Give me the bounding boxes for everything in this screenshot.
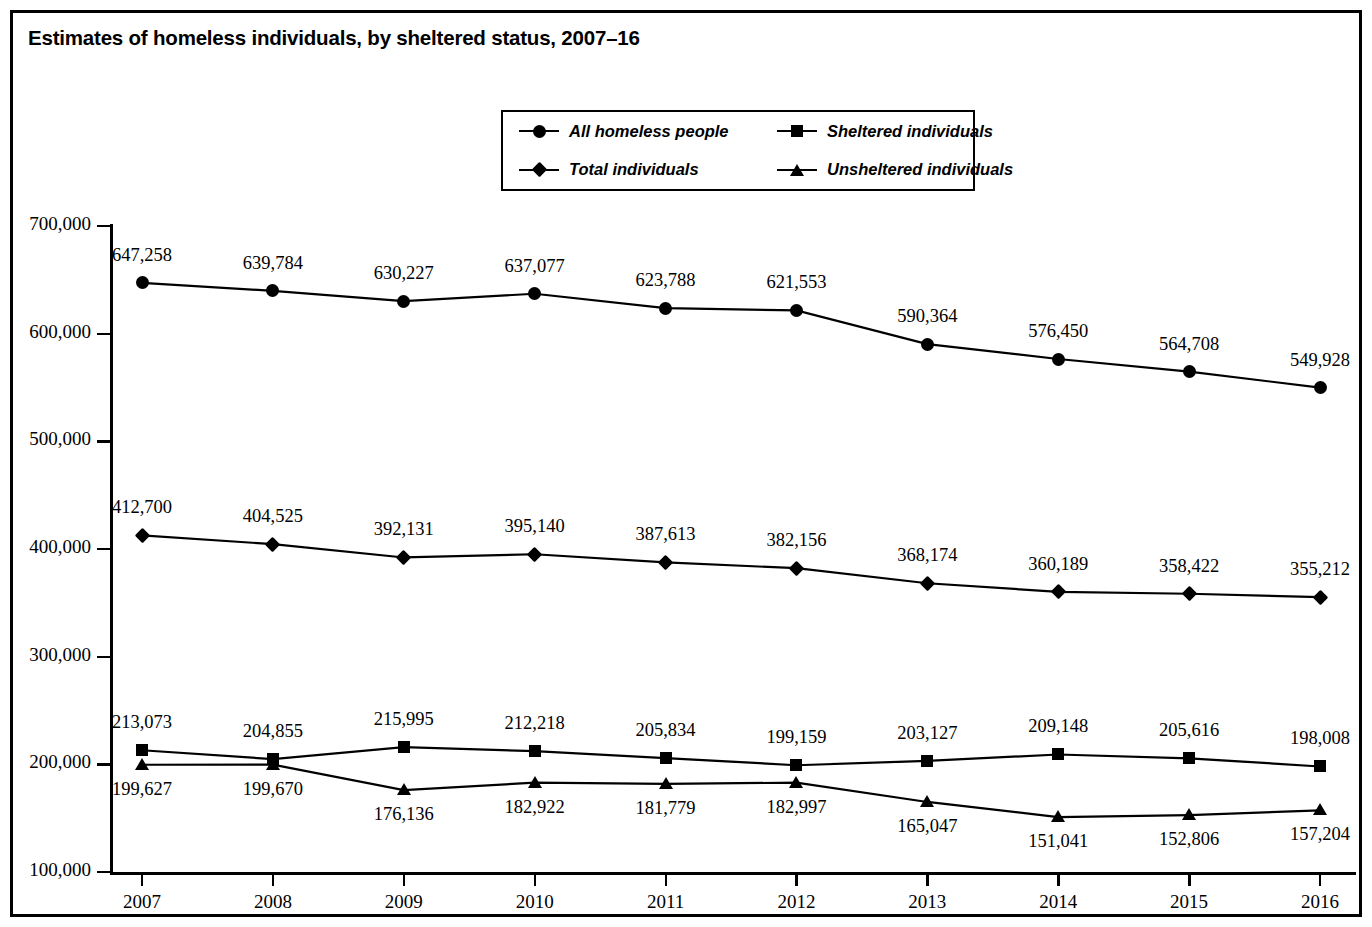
data-point-label: 199,670 — [243, 779, 303, 800]
data-point-label: 181,779 — [635, 798, 695, 819]
data-point-label: 182,997 — [766, 797, 826, 818]
square-marker-icon — [398, 741, 410, 753]
data-point-label: 165,047 — [897, 816, 957, 837]
data-point-label: 199,159 — [766, 727, 826, 748]
data-point-label: 205,616 — [1159, 720, 1219, 741]
data-point-label: 412,700 — [112, 497, 172, 518]
triangle-marker-icon — [1182, 808, 1196, 820]
circle-marker-icon — [1052, 353, 1065, 366]
triangle-marker-icon — [659, 777, 673, 789]
data-point-label: 549,928 — [1290, 350, 1350, 371]
data-point-label: 382,156 — [766, 530, 826, 551]
circle-marker-icon — [659, 302, 672, 315]
data-point-label: 204,855 — [243, 721, 303, 742]
series-line — [142, 747, 1320, 766]
series-lines — [0, 0, 1372, 927]
data-point-label: 387,613 — [635, 524, 695, 545]
triangle-marker-icon — [1051, 810, 1065, 822]
data-point-label: 199,627 — [112, 779, 172, 800]
data-point-label: 157,204 — [1290, 824, 1350, 845]
circle-marker-icon — [397, 295, 410, 308]
data-point-label: 205,834 — [635, 720, 695, 741]
data-point-label: 623,788 — [635, 270, 695, 291]
data-point-label: 360,189 — [1028, 554, 1088, 575]
square-marker-icon — [1314, 760, 1326, 772]
data-point-label: 392,131 — [374, 519, 434, 540]
data-point-label: 630,227 — [374, 263, 434, 284]
plot-area: 100,000200,000300,000400,000500,000600,0… — [0, 0, 1372, 927]
circle-marker-icon — [1183, 365, 1196, 378]
square-marker-icon — [1052, 748, 1064, 760]
data-point-label: 576,450 — [1028, 321, 1088, 342]
square-marker-icon — [136, 744, 148, 756]
chart-figure: Estimates of homeless individuals, by sh… — [0, 0, 1372, 927]
series-line — [142, 535, 1320, 597]
square-marker-icon — [529, 745, 541, 757]
series-line — [142, 765, 1320, 817]
data-point-label: 395,140 — [505, 516, 565, 537]
square-marker-icon — [660, 752, 672, 764]
triangle-marker-icon — [528, 776, 542, 788]
circle-marker-icon — [1314, 381, 1327, 394]
triangle-marker-icon — [920, 795, 934, 807]
data-point-label: 213,073 — [112, 712, 172, 733]
data-point-label: 637,077 — [505, 256, 565, 277]
triangle-marker-icon — [266, 758, 280, 770]
circle-marker-icon — [136, 276, 149, 289]
data-point-label: 203,127 — [897, 723, 957, 744]
data-point-label: 590,364 — [897, 306, 957, 327]
data-point-label: 151,041 — [1028, 831, 1088, 852]
square-marker-icon — [1183, 752, 1195, 764]
triangle-marker-icon — [1313, 803, 1327, 815]
data-point-label: 358,422 — [1159, 556, 1219, 577]
data-point-label: 564,708 — [1159, 334, 1219, 355]
data-point-label: 355,212 — [1290, 559, 1350, 580]
data-point-label: 215,995 — [374, 709, 434, 730]
data-point-label: 621,553 — [766, 272, 826, 293]
data-point-label: 212,218 — [505, 713, 565, 734]
data-point-label: 647,258 — [112, 245, 172, 266]
data-point-label: 182,922 — [505, 797, 565, 818]
data-point-label: 176,136 — [374, 804, 434, 825]
data-point-label: 198,008 — [1290, 728, 1350, 749]
triangle-marker-icon — [135, 758, 149, 770]
data-point-label: 209,148 — [1028, 716, 1088, 737]
square-marker-icon — [790, 759, 802, 771]
triangle-marker-icon — [397, 783, 411, 795]
data-point-label: 639,784 — [243, 253, 303, 274]
square-marker-icon — [921, 755, 933, 767]
circle-marker-icon — [921, 338, 934, 351]
data-point-label: 152,806 — [1159, 829, 1219, 850]
triangle-marker-icon — [789, 776, 803, 788]
circle-marker-icon — [790, 304, 803, 317]
series-line — [142, 283, 1320, 388]
data-point-label: 368,174 — [897, 545, 957, 566]
data-point-label: 404,525 — [243, 506, 303, 527]
